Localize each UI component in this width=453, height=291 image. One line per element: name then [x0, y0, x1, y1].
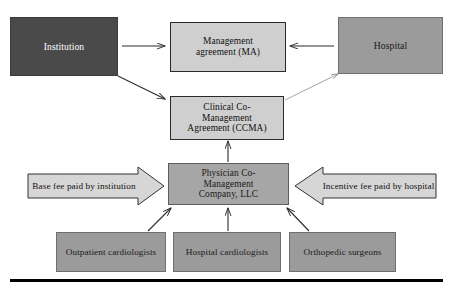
- node-orthopedic-surgeons[interactable]: Orthopedic surgeons: [289, 232, 396, 272]
- node-pcmc-label: Physician Co-Management Company, LLC: [169, 168, 288, 200]
- node-management-agreement[interactable]: Management agreement (MA): [170, 22, 286, 72]
- node-pcmc-line2: Company, LLC: [173, 189, 284, 200]
- bottom-divider: [10, 279, 443, 282]
- connector-institution-to-ccma: [118, 76, 165, 99]
- flow-arrow-incentive-fee[interactable]: Incentive fee paid by hospital: [294, 166, 437, 206]
- node-hospital[interactable]: Hospital: [338, 17, 443, 74]
- node-hospital-cardiologists[interactable]: Hospital cardiologists: [173, 232, 281, 272]
- diagram-canvas: Institution Management agreement (MA) Ho…: [0, 0, 453, 291]
- node-outpatient-cardiologists-label: Outpatient cardiologists: [62, 247, 160, 258]
- node-management-agreement-line2: agreement (MA): [192, 47, 264, 58]
- flow-arrow-base-fee[interactable]: Base fee paid by institution: [27, 166, 165, 206]
- node-orthopedic-surgeons-label: Orthopedic surgeons: [299, 247, 385, 258]
- node-pcmc-line1: Physician Co-Management: [173, 168, 284, 190]
- connector-outpatient-cardiologists-to-pcmc: [148, 208, 171, 231]
- node-hospital-label: Hospital: [370, 40, 411, 51]
- node-ccma[interactable]: Clinical Co-Management Agreement (CCMA): [170, 96, 284, 140]
- node-ccma-line2: Agreement (CCMA): [175, 123, 279, 134]
- node-hospital-cardiologists-label: Hospital cardiologists: [182, 247, 273, 258]
- node-pcmc[interactable]: Physician Co-Management Company, LLC: [168, 163, 289, 205]
- node-management-agreement-line1: Management: [192, 36, 264, 47]
- node-management-agreement-label: Management agreement (MA): [188, 36, 268, 58]
- connector-ccma-to-hospital: [285, 74, 338, 100]
- connector-orthopedic-surgeons-to-pcmc: [287, 208, 309, 231]
- node-ccma-label: Clinical Co-Management Agreement (CCMA): [171, 102, 283, 134]
- node-institution-label: Institution: [40, 41, 89, 52]
- node-ccma-line1: Clinical Co-Management: [175, 102, 279, 124]
- node-outpatient-cardiologists[interactable]: Outpatient cardiologists: [56, 232, 166, 272]
- flow-arrow-base-fee-label: Base fee paid by institution: [32, 181, 135, 191]
- node-institution[interactable]: Institution: [10, 17, 118, 76]
- flow-arrow-incentive-fee-label: Incentive fee paid by hospital: [323, 181, 435, 191]
